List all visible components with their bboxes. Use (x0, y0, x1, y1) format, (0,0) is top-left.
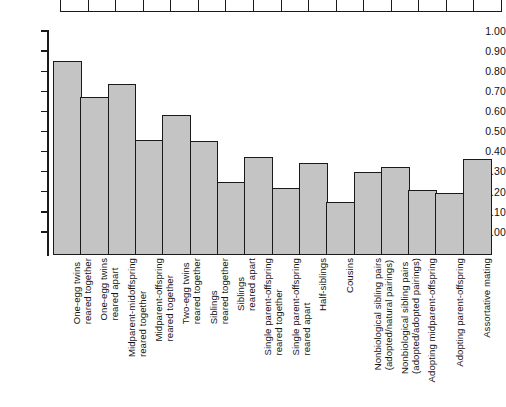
x-axis-label-line1: Siblings (235, 277, 246, 311)
x-axis-label: Cousins (345, 258, 356, 293)
x-axis-label-line1: Siblings (208, 290, 219, 324)
bar (272, 188, 301, 255)
x-axis-label: Adopting midparent-offspring (427, 258, 438, 382)
x-axis-label: One-egg twinsreared together (72, 258, 93, 324)
y-axis-tick (41, 151, 47, 152)
bar (80, 97, 109, 255)
y-axis-tick (41, 131, 47, 132)
y-axis-tick (41, 191, 47, 192)
x-axis-label-line1: Assortative mating (481, 258, 492, 338)
bar (435, 193, 464, 255)
x-axis-label: Half-siblings (318, 258, 329, 311)
x-axis-label: Nonbiological sibling pairs(adopted/natu… (373, 258, 394, 370)
x-axis-label-line2: (adopted/adopted pairings) (411, 258, 422, 374)
x-axis-label-line1: One-egg twins (98, 258, 109, 321)
y-axis-line (47, 30, 49, 256)
bar (381, 167, 410, 255)
x-axis-label-line1: Nonbiological sibling pairs (399, 262, 410, 374)
x-axis-label: One-egg twinsreared apart (99, 258, 120, 321)
x-axis-label-line1: Two-egg twins (180, 262, 191, 324)
bar (326, 202, 355, 255)
x-axis-label-line1: Half-siblings (317, 258, 328, 311)
y-axis-tick (41, 211, 47, 212)
x-axis-label-line1: Midparent-midoffspring (126, 258, 137, 357)
x-axis-label-line2: reared apart (247, 258, 258, 311)
x-axis-label: Single parent-offspringreared together (263, 258, 284, 356)
x-axis-label-line1: Single parent-offspring (290, 258, 301, 356)
x-axis-label-line1: Single parent-offspring (262, 258, 273, 356)
x-axis-label-line2: reared together (274, 258, 285, 356)
x-axis-label: Nonbiological sibling pairs(adopted/adop… (400, 258, 421, 374)
x-axis-label-line2: reared together (192, 258, 203, 324)
x-axis-label: Midparent-offspringreared together (154, 258, 175, 341)
x-axis-label-line2: reared together (137, 258, 148, 357)
x-axis-label: Siblingsreared apart (236, 258, 257, 311)
x-axis-label-line2: reared together (83, 258, 94, 324)
x-axis-label: Adopting parent-offspring (455, 258, 466, 367)
y-axis-tick (41, 231, 47, 232)
bar (217, 182, 246, 255)
bar (354, 172, 383, 255)
bar (408, 190, 437, 255)
y-axis-tick (41, 71, 47, 72)
x-axis-label-line1: Adopting midparent-offspring (426, 258, 437, 382)
x-axis-label-group: One-egg twinsreared togetherOne-egg twin… (53, 258, 490, 406)
bar (463, 159, 492, 255)
bar (299, 163, 328, 255)
x-axis-label-line1: Adopting parent-offspring (454, 258, 465, 367)
bar (53, 61, 82, 255)
x-axis-label-line1: Nonbiological sibling pairs (372, 258, 383, 370)
bar (190, 141, 219, 255)
x-axis-label-line2: reared apart (301, 258, 312, 356)
x-axis-label: Siblingsreared together (209, 258, 230, 324)
x-axis-label-line2: reared together (219, 258, 230, 324)
x-axis-label: Single parent-offspringreared apart (291, 258, 312, 356)
y-axis-tick (41, 50, 47, 51)
y-axis-tick (41, 30, 47, 31)
x-axis-label: Midparent-midoffspringreared together (127, 258, 148, 357)
x-axis-label-line2: reared apart (110, 258, 121, 321)
bar (135, 140, 164, 255)
x-axis-label-line1: Cousins (344, 258, 355, 293)
x-axis-label: Two-egg twinsreared together (181, 258, 202, 324)
bar (108, 84, 137, 255)
x-axis-label-line2: reared together (165, 258, 176, 341)
heritability-bar-chart: 1.000.900.800.700.600.500.400.300.200.10… (0, 0, 506, 407)
bar (162, 115, 191, 255)
x-axis-label-line1: Midparent-offspring (153, 258, 164, 341)
bar (244, 157, 273, 255)
y-axis-tick (41, 91, 47, 92)
x-axis-label-line1: One-egg twins (71, 262, 82, 325)
y-axis-tick (41, 111, 47, 112)
x-axis-label: Assortative mating (482, 258, 493, 338)
bars-group (53, 31, 490, 255)
x-axis-label-line2: (adopted/natural pairings) (383, 258, 394, 370)
y-axis-tick (41, 171, 47, 172)
